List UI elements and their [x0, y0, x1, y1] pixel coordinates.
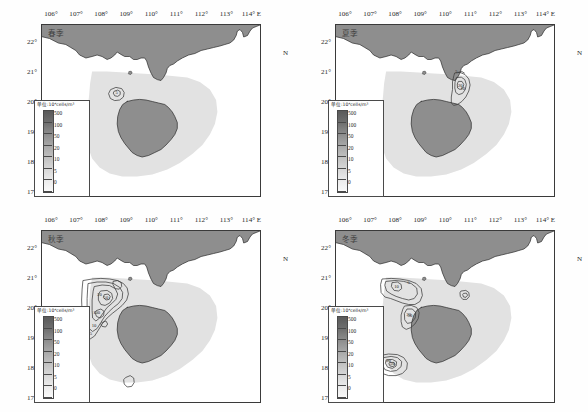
longitude-tick-label: 106°	[44, 10, 57, 19]
colorbar-tick-label: 500	[348, 110, 356, 117]
longitude-tick-label: 106°	[338, 216, 351, 225]
colorbar-divider	[43, 179, 52, 180]
colorbar-tick-label: 5	[348, 167, 351, 174]
latitude-tick-label: 21°	[27, 274, 37, 283]
colorbar-tick-label: 10	[348, 156, 353, 163]
svg-text:20: 20	[458, 83, 463, 88]
latitude-tick-label: 22°	[27, 38, 37, 47]
colorbar-tick-label: 50	[54, 133, 59, 140]
latitude-tick-label: 21°	[27, 68, 37, 77]
latitude-hemisphere-label: N	[283, 49, 288, 58]
colorbar-tick-label: 0	[348, 385, 351, 392]
longitude-tick-label: 108°	[388, 10, 401, 19]
latitude-tick-label: 22°	[27, 244, 37, 253]
longitude-tick-label: 112°	[195, 216, 208, 225]
colorbar: 单位:10⁴cells/m³50010050201050	[34, 100, 90, 197]
colorbar-unit-label: 单位:10⁴cells/m³	[331, 308, 381, 314]
svg-text:20: 20	[97, 292, 102, 297]
colorbar-divider	[337, 351, 346, 352]
longitude-tick-label: 113°	[220, 216, 233, 225]
colorbar-tick-label: 20	[348, 350, 353, 357]
season-label: 冬季	[342, 235, 359, 245]
longitude-tick-label: 114° E	[536, 216, 555, 225]
longitude-tick-label: 109°	[413, 10, 426, 19]
longitude-tick-label: 114° E	[242, 216, 261, 225]
colorbar-tick-label: 100	[54, 327, 62, 334]
longitude-tick-label: 107°	[363, 216, 376, 225]
colorbar-divider	[43, 328, 52, 329]
colorbar-divider	[337, 191, 346, 192]
longitude-tick-label: 107°	[69, 216, 82, 225]
latitude-hemisphere-label: N	[283, 255, 288, 264]
latitude-hemisphere-label: N	[577, 255, 582, 264]
longitude-tick-label: 107°	[69, 10, 82, 19]
colorbar-tick-label: 100	[348, 121, 356, 128]
colorbar-tick-label: 50	[348, 133, 353, 140]
colorbar-divider	[337, 374, 346, 375]
svg-text:10: 10	[92, 323, 97, 328]
latitude-tick-label: 22°	[321, 38, 331, 47]
longitude-tick-label: 111°	[464, 216, 477, 225]
longitude-tick-label: 106°	[44, 216, 57, 225]
colorbar-unit-label: 单位:10⁴cells/m³	[37, 102, 87, 108]
colorbar-divider	[43, 397, 52, 398]
colorbar-tick-label: 50	[348, 339, 353, 346]
latitude-tick-label: 22°	[321, 244, 331, 253]
svg-text:50: 50	[104, 295, 109, 300]
colorbar-tick-label: 0	[54, 179, 57, 186]
longitude-tick-label: 112°	[195, 10, 208, 19]
colorbar-divider	[43, 385, 52, 386]
svg-text:100: 100	[93, 310, 101, 315]
longitude-tick-label: 109°	[119, 10, 132, 19]
map-panel-spring: 106°107°108°109°110°111°112°113°114° E22…	[0, 0, 294, 206]
latitude-tick-label: 21°	[321, 68, 331, 77]
colorbar-divider	[337, 122, 346, 123]
colorbar-divider	[43, 122, 52, 123]
longitude-tick-label: 110°	[145, 10, 158, 19]
colorbar-divider	[337, 156, 346, 157]
colorbar-divider	[337, 145, 346, 146]
colorbar-tick-label: 10	[54, 156, 59, 163]
longitude-tick-label: 109°	[413, 216, 426, 225]
colorbar-divider	[43, 339, 52, 340]
colorbar-tick-label: 100	[54, 121, 62, 128]
colorbar-tick-label: 500	[348, 316, 356, 323]
colorbar-tick-label: 10	[54, 362, 59, 369]
longitude-tick-label: 113°	[514, 10, 527, 19]
colorbar-divider	[337, 168, 346, 169]
longitude-tick-label: 112°	[489, 10, 502, 19]
colorbar-divider	[43, 362, 52, 363]
colorbar: 单位:10⁴cells/m³50010050201050	[328, 100, 384, 197]
map-panel-autumn: 106°107°108°109°110°111°112°113°114° E22…	[0, 206, 294, 412]
longitude-tick-label: 112°	[489, 216, 502, 225]
colorbar-tick-label: 0	[348, 179, 351, 186]
colorbar-divider	[337, 385, 346, 386]
longitude-tick-label: 114° E	[536, 10, 555, 19]
longitude-tick-label: 113°	[220, 10, 233, 19]
colorbar-tick-label: 0	[54, 385, 57, 392]
longitude-tick-label: 114° E	[242, 10, 261, 19]
colorbar-divider	[43, 168, 52, 169]
colorbar-divider	[337, 179, 346, 180]
longitude-tick-label: 111°	[464, 10, 477, 19]
svg-text:10: 10	[394, 284, 399, 289]
colorbar-unit-label: 单位:10⁴cells/m³	[37, 308, 87, 314]
longitude-tick-label: 107°	[363, 10, 376, 19]
season-label: 春季	[48, 29, 65, 39]
colorbar-divider	[43, 191, 52, 192]
map-panel-winter: 106°107°108°109°110°111°112°113°114° E22…	[294, 206, 588, 412]
colorbar-divider	[337, 397, 346, 398]
colorbar-tick-label: 500	[54, 110, 62, 117]
map-panel-summer: 106°107°108°109°110°111°112°113°114° E22…	[294, 0, 588, 206]
colorbar-divider	[43, 145, 52, 146]
longitude-tick-label: 110°	[145, 216, 158, 225]
longitude-tick-label: 109°	[119, 216, 132, 225]
longitude-tick-label: 108°	[388, 216, 401, 225]
season-label: 秋季	[48, 235, 65, 245]
longitude-axis: 106°107°108°109°110°111°112°113°114° E	[41, 10, 259, 24]
longitude-tick-label: 111°	[170, 216, 183, 225]
colorbar-tick-label: 20	[54, 350, 59, 357]
colorbar-divider	[337, 362, 346, 363]
colorbar-divider	[337, 328, 346, 329]
colorbar-divider	[337, 133, 346, 134]
